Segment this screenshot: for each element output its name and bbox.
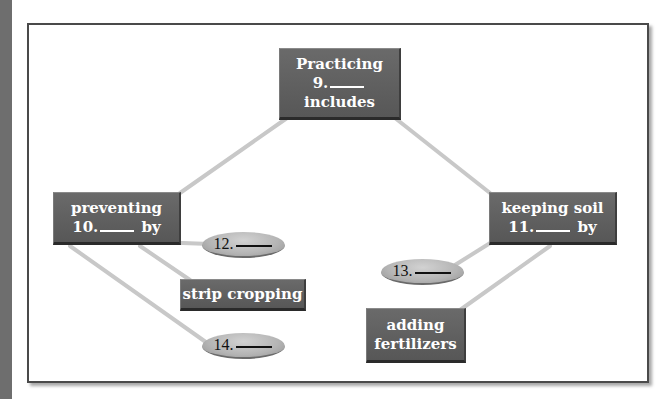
oval-blank-14[interactable]: 14.: [202, 333, 285, 359]
oval-13-number: 13.: [393, 262, 413, 280]
connector-root-right: [395, 118, 490, 193]
answer-blank-13[interactable]: [415, 269, 451, 274]
strip-cropping-box: strip cropping: [180, 279, 306, 311]
oval-12-number: 12.: [214, 235, 234, 253]
connector-left-strip: [140, 246, 190, 280]
left-blank-number: 10.: [72, 218, 98, 236]
right-blank-number: 11.: [508, 218, 534, 236]
left-branch-box: preventing 10. by: [53, 192, 181, 245]
fertilizers-line-2: fertilizers: [374, 335, 456, 354]
right-branch-box: keeping soil 11. by: [489, 192, 617, 245]
answer-blank-9[interactable]: [330, 82, 364, 88]
adding-fertilizers-box: adding fertilizers: [366, 308, 466, 363]
answer-blank-12[interactable]: [236, 242, 272, 247]
strip-cropping-label: strip cropping: [183, 285, 303, 304]
right-line-2: 11. by: [508, 218, 597, 237]
right-line-1: keeping soil: [501, 199, 603, 218]
fertilizers-line-1: adding: [387, 316, 445, 335]
root-line-1: Practicing: [296, 55, 383, 74]
left-line-1: preventing: [71, 199, 162, 218]
left-line-2: 10. by: [72, 218, 161, 237]
oval-14-number: 14.: [214, 336, 234, 354]
root-concept-box: Practicing 9. includes: [279, 48, 401, 120]
root-line-3: includes: [304, 93, 375, 112]
answer-blank-11[interactable]: [536, 226, 570, 232]
root-line-2: 9.: [313, 74, 367, 93]
root-blank-number: 9.: [313, 74, 329, 92]
answer-blank-14[interactable]: [236, 343, 272, 348]
connector-root-left: [180, 118, 287, 193]
oval-blank-12[interactable]: 12.: [202, 232, 285, 258]
oval-blank-13[interactable]: 13.: [381, 259, 464, 285]
answer-blank-10[interactable]: [100, 226, 134, 232]
